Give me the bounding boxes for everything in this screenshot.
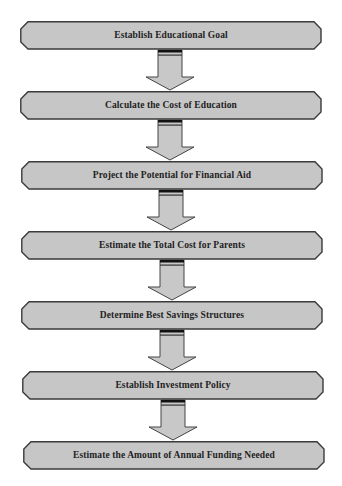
down-arrow-icon	[145, 119, 195, 161]
down-arrow-icon	[148, 399, 198, 441]
step-determine-savings-structures: Determine Best Savings Structures	[21, 301, 323, 329]
step-calculate-cost: Calculate the Cost of Education	[20, 91, 322, 119]
step-label: Project the Potential for Financial Aid	[21, 161, 323, 189]
down-arrow-icon	[146, 189, 196, 231]
step-label: Calculate the Cost of Education	[20, 91, 322, 119]
step-label: Determine Best Savings Structures	[21, 301, 323, 329]
step-label: Estimate the Total Cost for Parents	[21, 231, 323, 259]
step-establish-educational-goal: Establish Educational Goal	[20, 21, 322, 49]
down-arrow-icon	[147, 259, 197, 301]
step-label: Establish Educational Goal	[20, 21, 322, 49]
down-arrow-icon	[145, 49, 195, 91]
flowchart: Establish Educational Goal Calculate the…	[0, 0, 342, 486]
step-estimate-annual-funding: Estimate the Amount of Annual Funding Ne…	[23, 441, 325, 469]
step-estimate-total-cost: Estimate the Total Cost for Parents	[21, 231, 323, 259]
down-arrow-icon	[147, 329, 197, 371]
step-project-financial-aid: Project the Potential for Financial Aid	[21, 161, 323, 189]
step-label: Establish Investment Policy	[22, 371, 324, 399]
step-establish-investment-policy: Establish Investment Policy	[22, 371, 324, 399]
step-label: Estimate the Amount of Annual Funding Ne…	[23, 441, 325, 469]
